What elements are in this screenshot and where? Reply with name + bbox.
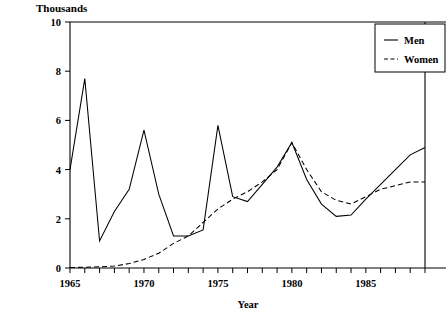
y-tick-label: 6 [56,115,61,126]
legend: Men Women [375,24,445,72]
x-tick-group [70,268,425,273]
x-tick-label: 1975 [207,278,228,289]
chart-container: Thousands 0246810 19651970197519801985 M… [0,0,446,320]
x-tick-label: 1985 [355,278,376,289]
x-tick-label: 1965 [60,278,81,289]
y-tick-label: 8 [56,66,61,77]
unit-title: Thousands [36,2,88,14]
x-tick-label: 1970 [133,278,154,289]
y-tick-label: 0 [56,263,61,274]
line-chart: Thousands 0246810 19651970197519801985 M… [0,0,446,320]
x-tick-label: 1980 [281,278,302,289]
y-tick-group: 0246810 [51,17,71,274]
y-tick-label: 10 [51,17,62,28]
legend-label-women: Women [404,54,439,65]
series-line-men [70,79,425,241]
y-tick-label: 2 [56,214,61,225]
x-tick-label-group: 19651970197519801985 [60,278,377,289]
series-line-women [70,143,425,268]
y-tick-label: 4 [56,165,62,176]
legend-label-men: Men [404,35,425,46]
x-axis-label: Year [238,299,259,310]
